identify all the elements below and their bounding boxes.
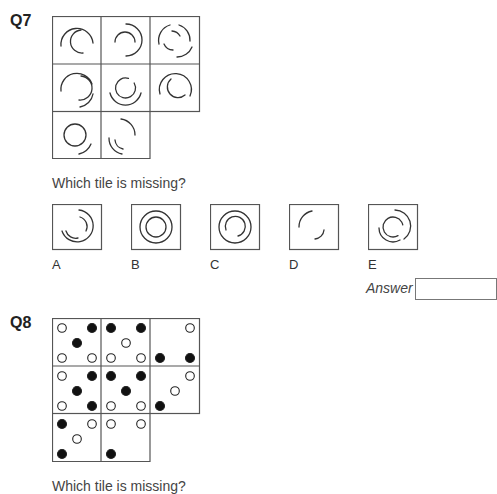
- answer-label: Answer: [366, 280, 413, 296]
- q7-option-d-tile[interactable]: [289, 204, 340, 251]
- q7-prompt: Which tile is missing?: [52, 175, 186, 191]
- q7-option-c[interactable]: [210, 204, 261, 255]
- question-number-q7: Q7: [10, 12, 31, 30]
- q7-grid-figure: [52, 16, 202, 160]
- q7-option-a-label: A: [52, 257, 61, 272]
- q7-option-e-tile[interactable]: [368, 204, 419, 251]
- q7-option-b-label: B: [131, 257, 140, 272]
- q7-option-e[interactable]: [368, 204, 419, 255]
- q7-option-d-label: D: [289, 257, 298, 272]
- q7-option-c-label: C: [210, 257, 219, 272]
- q7-option-d[interactable]: [289, 204, 340, 255]
- q7-option-b[interactable]: [131, 204, 182, 255]
- q7-option-a-tile[interactable]: [52, 204, 103, 251]
- question-number-q8: Q8: [10, 314, 31, 332]
- q8-puzzle-grid: [52, 318, 202, 466]
- q7-option-b-tile[interactable]: [131, 204, 182, 251]
- q8-prompt: Which tile is missing?: [52, 478, 186, 494]
- q7-puzzle-grid: [52, 16, 202, 160]
- q7-option-c-tile[interactable]: [210, 204, 261, 251]
- answer-input[interactable]: [415, 278, 497, 300]
- q8-grid-figure: [52, 318, 202, 466]
- q7-option-e-label: E: [368, 257, 377, 272]
- q7-option-a[interactable]: [52, 204, 103, 255]
